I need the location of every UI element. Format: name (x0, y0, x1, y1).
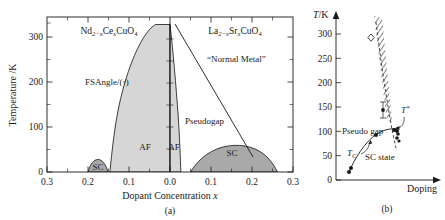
pseudogap-boundary-line (175, 24, 253, 157)
panel-b-y-axis-title-k: /K (319, 9, 330, 20)
panel-a-x-axis-title-text: Dopant Concentration (122, 190, 213, 201)
figure-root: 0 100 200 300 0.3 0.2 0.1 0.0 0.1 0.2 0.… (0, 0, 445, 220)
panel-b-ytick-50: 50 (323, 151, 333, 161)
pseudo-gap-label: Pseudo gap (342, 126, 384, 136)
sc-label-left: SC (92, 162, 103, 172)
panel-a-tag: (a) (165, 206, 176, 217)
panel-b-y-ticks (336, 34, 341, 180)
panel-a-y-axis-title: Temperature /K (7, 63, 18, 127)
tc-label: TC (347, 148, 357, 160)
panel-b-ytick-150: 150 (318, 102, 333, 112)
panel-a-ytick-0: 0 (38, 167, 43, 177)
formula-left-p1: Nd (80, 26, 92, 36)
fsangle-label: FSAngle/(◦) (85, 77, 129, 87)
panel-b-x-axis-title: Doping (407, 183, 437, 194)
panel-b-y-axis-arrow (333, 11, 340, 19)
panel-a-plot: 0 100 200 300 0.3 0.2 0.1 0.0 0.1 0.2 0.… (7, 17, 299, 217)
phase-diagram-figure: 0 100 200 300 0.3 0.2 0.1 0.0 0.1 0.2 0.… (0, 0, 445, 220)
tstar-arrow (397, 117, 404, 128)
panel-b-y-axis-title: T/K (313, 9, 329, 20)
sc-label-right: SC (226, 148, 237, 158)
panel-a-ytick-300: 300 (29, 32, 44, 42)
af-label-left: AF (139, 142, 151, 152)
panel-b-ytick-200: 200 (318, 78, 333, 88)
panel-b-ytick-250: 250 (318, 54, 333, 64)
normal-metal-label: “Normal Metal” (207, 54, 266, 64)
tstar-point-open-diamond (368, 34, 374, 41)
formula-right-s1: 2−x (218, 30, 229, 37)
formula-left-s1: 2−x (92, 30, 103, 37)
tc-label-sub: C (352, 152, 357, 160)
panel-a-x-axis-title: Dopant Concentration x (122, 190, 218, 201)
panel-a-ytick-200: 200 (29, 77, 44, 87)
formula-left-s3: 4 (134, 30, 138, 37)
tstar-label-sup: * (406, 104, 410, 112)
formula-left-p3: CuO (116, 26, 134, 36)
af-label-right: AF (168, 142, 180, 152)
panel-a-xtick-5: 0.1 (205, 177, 217, 187)
panel-b-ytick-0: 0 (327, 175, 332, 185)
panel-a-xtick-2: 0.2 (82, 177, 94, 187)
panel-b-plot: 0 50 100 150 200 250 300 T/K (313, 9, 441, 215)
panel-a-ytick-100: 100 (29, 122, 44, 132)
formula-left-p2: Ce (103, 26, 114, 36)
tstar-label: T* (401, 104, 410, 115)
panel-a-xtick-6: 0.2 (246, 177, 258, 187)
panel-b-ytick-100: 100 (318, 127, 333, 137)
sc-state-label: SC state (365, 152, 395, 162)
panel-a-xtick-4: 0.0 (164, 177, 176, 187)
panel-a-xtick-3: 0.1 (123, 177, 135, 187)
panel-b-ytick-300: 300 (318, 29, 333, 39)
panel-a-xtick-7: 0.3 (287, 177, 299, 187)
pseudogap-label: Pseudogap (185, 116, 224, 126)
formula-right-p3: CuO (240, 26, 258, 36)
panel-a-xtick-1: 0.3 (41, 177, 53, 187)
formula-right-s3: 4 (258, 30, 262, 37)
formula-electron-doped: Nd2−xCexCuO4 (80, 26, 138, 37)
panel-a-x-axis-title-var: x (212, 190, 218, 201)
formula-hole-doped: La2−xSrxCuO4 (208, 26, 262, 37)
panel-b-tag: (b) (381, 204, 392, 215)
